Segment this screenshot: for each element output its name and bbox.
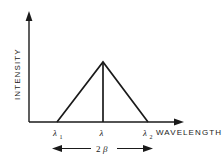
- lambda-1-subscript: 1: [60, 134, 63, 140]
- lambda-2-symbol: λ: [142, 128, 147, 138]
- figure-canvas: INTENSITY WAVELENGTH λ 1 λ λ 2 2 β: [0, 0, 222, 160]
- lambda-center-symbol: λ: [99, 128, 104, 138]
- dimension-beta-symbol: β: [102, 144, 108, 154]
- dimension-left-arrowhead-icon: [52, 145, 62, 152]
- lambda-1-symbol: λ: [52, 128, 57, 138]
- spectral-lineshape-figure: INTENSITY WAVELENGTH λ 1 λ λ 2 2 β: [0, 0, 222, 160]
- y-axis-label: INTENSITY: [13, 48, 22, 100]
- lambda-2-subscript: 2: [150, 134, 153, 140]
- x-tick-lambda-2: λ 2: [142, 128, 153, 140]
- y-axis-arrowhead-icon: [26, 11, 33, 21]
- x-tick-lambda-center: λ: [99, 128, 104, 138]
- dimension-number: 2: [96, 144, 101, 154]
- x-tick-lambda-1: λ 1: [52, 128, 63, 140]
- x-axis-arrowhead-icon: [174, 119, 184, 126]
- dimension-right-arrowhead-icon: [143, 145, 153, 152]
- x-axis-label: WAVELENGTH: [156, 128, 222, 137]
